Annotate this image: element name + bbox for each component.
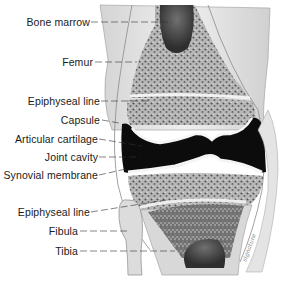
label-tibia: Tibia xyxy=(55,245,78,257)
label-bone-marrow: Bone marrow xyxy=(26,16,90,28)
label-epiphyseal-line-upper: Epiphyseal line xyxy=(28,95,100,107)
label-synovial-membrane: Synovial membrane xyxy=(4,169,99,181)
label-capsule: Capsule xyxy=(61,114,100,126)
label-fibula: Fibula xyxy=(49,225,78,237)
label-epiphyseal-line-lower: Epiphyseal line xyxy=(18,206,90,218)
fibula-shape xyxy=(119,200,143,275)
label-joint-cavity: Joint cavity xyxy=(45,151,98,163)
label-femur: Femur xyxy=(62,56,93,68)
label-articular-cartilage: Articular cartilage xyxy=(15,133,98,145)
